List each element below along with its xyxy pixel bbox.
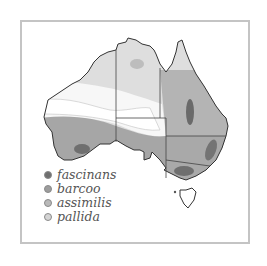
legend-label: assimilis: [57, 196, 112, 210]
legend-item-assimilis: assimilis: [44, 196, 116, 210]
legend-swatch-icon: [44, 171, 52, 179]
australia-map: [0, 0, 267, 266]
legend-swatch-icon: [44, 213, 52, 221]
legend-label: pallida: [57, 210, 100, 224]
legend-label: fascinans: [57, 168, 116, 182]
legend: fascinans barcoo assimilis pallida: [44, 168, 116, 224]
legend-swatch-icon: [44, 199, 52, 207]
legend-label: barcoo: [57, 182, 100, 196]
legend-item-fascinans: fascinans: [44, 168, 116, 182]
legend-item-barcoo: barcoo: [44, 182, 116, 196]
legend-item-pallida: pallida: [44, 210, 116, 224]
legend-swatch-icon: [44, 185, 52, 193]
